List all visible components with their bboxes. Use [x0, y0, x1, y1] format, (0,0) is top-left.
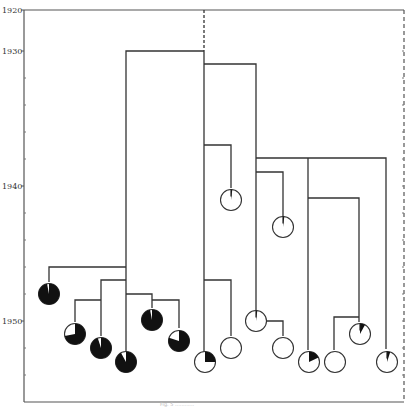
pie-node-R6 [273, 216, 294, 237]
pie-node-L1 [38, 284, 59, 305]
pie-node-L4 [115, 352, 136, 373]
tree-branches [49, 10, 386, 362]
tick-label-1940: 1940 [2, 182, 22, 191]
pie-node-L6 [168, 331, 189, 352]
pie-node-R7 [299, 352, 320, 373]
pie-node-R2 [221, 338, 242, 359]
y-axis: 1920 1930 1940 1950 [2, 6, 404, 375]
pie-node-R4 [246, 311, 267, 332]
tick-label-1920: 1920 [2, 6, 22, 15]
pie-node-R9 [350, 324, 371, 345]
figure-caption: Fig. 5 ............ [160, 401, 195, 407]
dendrogram-figure: 1920 1930 1940 1950 [0, 0, 414, 407]
tick-label-1950: 1950 [2, 317, 22, 326]
pie-node-R10 [377, 352, 398, 373]
pie-node-R1 [195, 352, 216, 373]
pie-node-R8 [325, 352, 346, 373]
pie-node-L5 [141, 310, 162, 331]
pie-node-R3 [221, 190, 242, 211]
pie-node-R5 [273, 338, 294, 359]
pie-nodes [38, 190, 397, 373]
tick-label-1930: 1930 [2, 47, 22, 56]
dendrogram-svg: 1920 1930 1940 1950 [0, 0, 414, 407]
pie-node-L2 [65, 324, 86, 345]
pie-node-L3 [91, 338, 112, 359]
